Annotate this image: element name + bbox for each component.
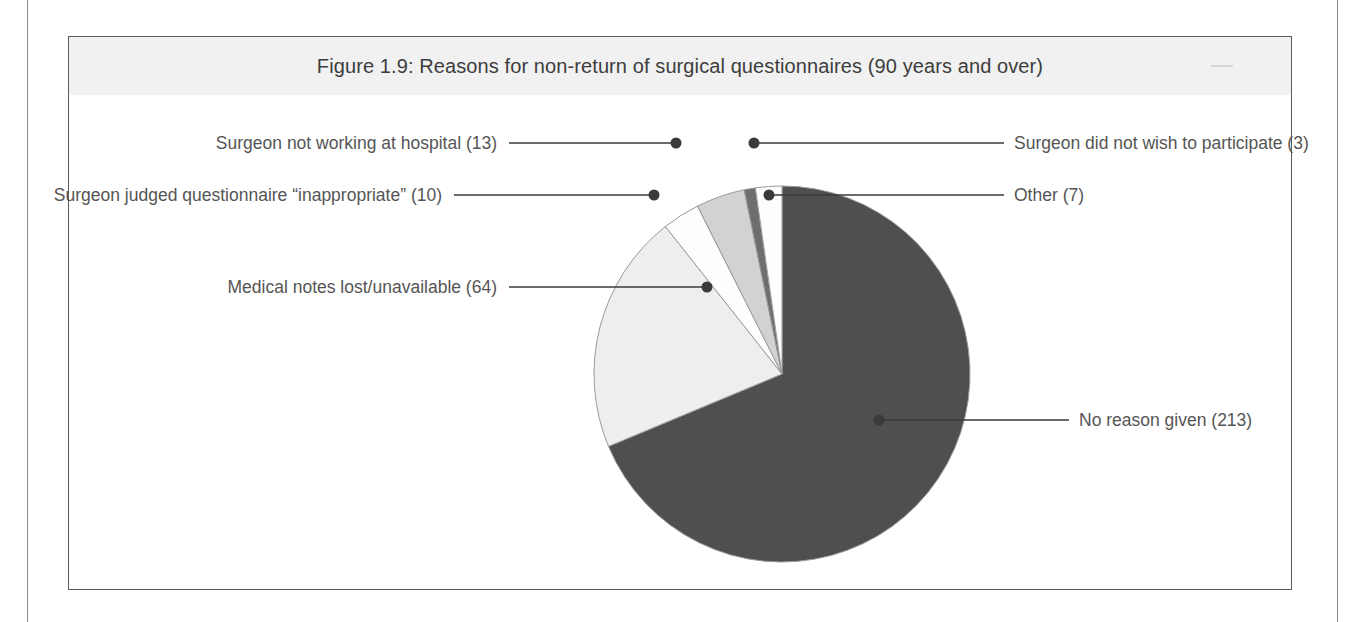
leader-dot-other: [764, 190, 775, 201]
pie-label-other: Other (7): [1014, 187, 1084, 205]
leader-dot-medical-notes: [702, 282, 713, 293]
leader-dot-inappropriate: [649, 190, 660, 201]
page-margin-rule-left: [27, 0, 28, 622]
leader-dot-did-not-wish: [749, 138, 760, 149]
leader-dot-no-reason-given: [874, 415, 885, 426]
pie-label-medical-notes: Medical notes lost/unavailable (64): [228, 279, 497, 297]
pie-label-not-working-at-hospital: Surgeon not working at hospital (13): [216, 135, 497, 153]
figure-title-band: Figure 1.9: Reasons for non-return of su…: [69, 37, 1291, 95]
leader-dot-not-working: [671, 138, 682, 149]
pie-label-did-not-wish-to-participate: Surgeon did not wish to participate (3): [1014, 135, 1309, 153]
pie-label-inappropriate: Surgeon judged questionnaire “inappropri…: [54, 187, 442, 205]
pie-chart-area: Surgeon did not wish to participate (3) …: [69, 95, 1291, 589]
title-dash-mark: [1211, 65, 1233, 67]
figure-container: Figure 1.9: Reasons for non-return of su…: [68, 36, 1292, 590]
pie-label-no-reason-given: No reason given (213): [1079, 412, 1252, 430]
pie-chart-svg: [69, 95, 1293, 591]
page-title: Figure 1.9: Reasons for non-return of su…: [317, 55, 1043, 78]
page-margin-rule-right: [1337, 0, 1338, 622]
